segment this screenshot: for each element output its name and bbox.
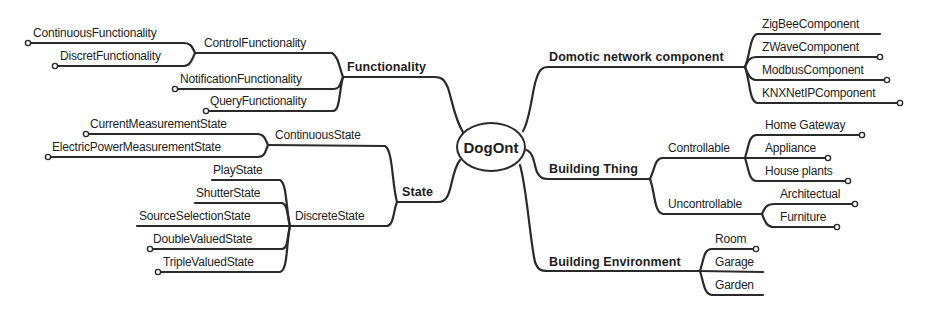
node-query-functionality[interactable]: QueryFunctionality [210,94,306,108]
root-node-dogont[interactable]: DogOnt [456,122,526,172]
leaf-end-zwave [877,54,882,59]
node-building-environment[interactable]: Building Environment [549,255,681,269]
node-garage[interactable]: Garage [715,255,754,269]
edge-root-functionality [343,77,463,132]
node-appliance[interactable]: Appliance [765,141,816,155]
edge-state-continuous [268,145,397,202]
leaf-end-triple-valued-state [155,269,160,274]
node-continuous-state[interactable]: ContinuousState [275,128,361,142]
mind-map-canvas: DogOnt Functionality ControlFunctionalit… [0,0,929,312]
node-controllable[interactable]: Controllable [668,141,730,155]
node-home-gateway[interactable]: Home Gateway [765,118,845,132]
leaf-end-room [753,246,758,251]
node-discret-functionality[interactable]: DiscretFunctionality [60,49,161,63]
leaf-end-knx [897,100,902,105]
node-notification-functionality[interactable]: NotificationFunctionality [180,72,302,86]
edge-be-garage [700,271,763,272]
leaf-end-notification-functionality [172,86,177,91]
leaf-end-electric-power-measurement-state [45,154,50,159]
node-room[interactable]: Room [715,232,746,246]
leaf-end-house-plants [845,178,850,183]
node-continuous-functionality[interactable]: ContinuousFunctionality [33,26,156,40]
node-functionality[interactable]: Functionality [347,60,426,74]
node-play-state[interactable]: PlayState [213,163,263,177]
leaf-end-modbus [884,77,889,82]
node-knxnetip-component[interactable]: KNXNetIPComponent [762,86,875,100]
leaf-end-discret-functionality [52,63,57,68]
leaf-end-furniture [834,224,839,229]
node-building-thing[interactable]: Building Thing [549,162,638,176]
node-source-selection-state[interactable]: SourceSelectionState [139,209,250,223]
node-furniture[interactable]: Furniture [780,210,826,224]
node-current-measurement-state[interactable]: CurrentMeasurementState [90,117,227,131]
node-double-valued-state[interactable]: DoubleValuedState [153,232,252,246]
node-architectual[interactable]: Architectual [780,187,840,201]
leaf-end-architectual [852,201,857,206]
node-zwave-component[interactable]: ZWaveComponent [762,40,859,54]
leaf-end-appliance [825,155,830,160]
node-triple-valued-state[interactable]: TripleValuedState [163,255,254,269]
node-discrete-state[interactable]: DiscreteState [295,209,364,223]
node-domotic-network-component[interactable]: Domotic network component [549,50,724,64]
node-shutter-state[interactable]: ShutterState [196,186,260,200]
edge-root-domotic [523,67,745,131]
node-modbus-component[interactable]: ModbusComponent [762,63,864,77]
node-zigbee-component[interactable]: ZigBeeComponent [762,17,859,31]
edge-bt-controllable [650,158,745,179]
node-garden[interactable]: Garden [715,278,754,292]
node-electric-power-measurement-state[interactable]: ElectricPowerMeasurementState [52,140,221,154]
node-uncontrollable[interactable]: Uncontrollable [668,197,742,211]
leaf-end-continuous-functionality [25,40,30,45]
leaf-end-home-gateway [859,132,864,137]
node-state[interactable]: State [402,185,433,199]
node-control-functionality[interactable]: ControlFunctionality [204,36,306,50]
root-label: DogOnt [464,139,519,156]
leaf-end-current-measurement-state [83,131,88,136]
node-house-plants[interactable]: House plants [765,164,833,178]
leaf-end-double-valued-state [147,246,152,251]
leaf-end-query-functionality [203,108,208,113]
